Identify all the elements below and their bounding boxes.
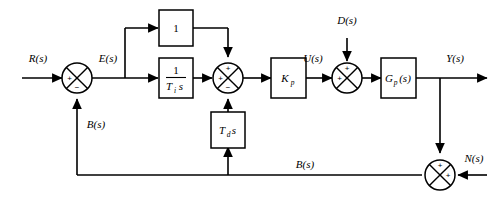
- label-feedback-signal-bottom: B(s): [296, 158, 315, 171]
- pid-sum-junction-sign-top: +: [226, 64, 231, 73]
- disturbance-junction-sign-left: +: [337, 74, 342, 83]
- block-proportional-unity: 1: [159, 10, 193, 46]
- noise-junction: + +: [425, 160, 455, 190]
- block-proportional-unity-label: 1: [173, 22, 179, 34]
- block-proportional-gain: K p: [271, 58, 306, 98]
- noise-junction-sign-top: +: [438, 161, 443, 170]
- label-disturbance-signal: D(s): [336, 14, 357, 27]
- block-integral-numerator: 1: [173, 64, 179, 76]
- block-plant-G: G: [385, 72, 393, 84]
- block-plant-subscript: p: [393, 78, 398, 87]
- label-feedback-signal-left: B(s): [87, 118, 106, 131]
- label-output-signal: Y(s): [446, 52, 464, 65]
- label-error-signal: E(s): [98, 52, 118, 65]
- label-control-signal: U(s): [303, 52, 323, 65]
- label-noise-signal: N(s): [464, 152, 484, 165]
- block-proportional-gain-subscript: p: [290, 78, 295, 87]
- disturbance-junction-sign-top: +: [345, 64, 350, 73]
- block-derivative-T: T: [219, 124, 226, 136]
- disturbance-junction: + +: [332, 63, 362, 93]
- block-diagram-canvas: + − + + − + + + +: [0, 0, 497, 197]
- pid-sum-junction-sign-bottom: −: [226, 83, 231, 92]
- error-junction-sign-bottom: −: [75, 83, 80, 92]
- block-derivative-s: s: [232, 124, 236, 136]
- label-reference-signal: R(s): [28, 52, 48, 65]
- block-derivative-subscript: d: [227, 130, 231, 139]
- pid-sum-junction-sign-left: +: [218, 74, 223, 83]
- block-derivative: T d s: [211, 112, 245, 148]
- block-integral-denominator-T: T: [166, 80, 173, 92]
- block-plant: G p (s): [381, 58, 416, 98]
- pid-sum-junction: + + −: [213, 63, 243, 93]
- block-integral-denominator-subscript: i: [174, 86, 176, 95]
- block-diagram-svg: + − + + − + + + +: [0, 0, 497, 197]
- error-junction-sign-left: +: [67, 74, 72, 83]
- block-integral-denominator-s: s: [179, 80, 183, 92]
- block-integral: 1 T i s: [159, 58, 193, 98]
- error-junction: + −: [62, 63, 92, 93]
- block-proportional-gain-K: K: [280, 72, 289, 84]
- block-plant-argument: (s): [399, 72, 411, 85]
- noise-junction-sign-right: +: [446, 171, 451, 180]
